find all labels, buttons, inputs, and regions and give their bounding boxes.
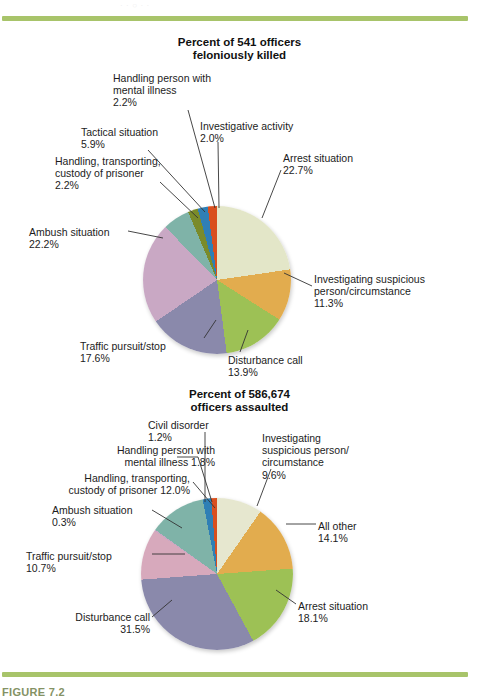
top-rule (2, 16, 468, 21)
chart1-pie (143, 206, 291, 354)
chart1-label-arrest-situation: Arrest situation 22.7% (283, 152, 413, 176)
chart1-label-investigating-suspicious: Investigating suspicious person/circumst… (314, 273, 469, 310)
chart1-title: Percent of 541 officers feloniously kill… (0, 36, 479, 62)
chart2-label-investigating-suspicious: Investigating suspicious person/ circums… (262, 432, 402, 481)
chart2-title: Percent of 586,674 officers assaulted (0, 388, 479, 414)
pie-chart-officers-assaulted: Percent of 586,674 officers assaulted Ci… (0, 384, 479, 674)
pie-chart-officers-killed: Percent of 541 officers feloniously kill… (0, 30, 479, 390)
figure-caption: FIGURE 7.2 (2, 686, 65, 696)
chart1-pie-wrap (143, 206, 291, 354)
chart2-title-line1: Percent of 586,674 (0, 388, 479, 401)
chart2-label-handling-transporting: Handling, transporting, custody of priso… (10, 472, 190, 496)
chart2-label-traffic-pursuit-stop: Traffic pursuit/stop 10.7% (26, 550, 156, 574)
chart1-title-line2: feloniously killed (0, 49, 479, 62)
chart1-label-investigative-activity: Investigative activity 2.0% (200, 120, 350, 144)
chart2-label-handling-mental-illness: Handling person with mental illness 1.8% (50, 444, 215, 468)
chart1-label-tactical-situation: Tactical situation 5.9% (81, 126, 211, 150)
page-header-ghost-text: · · ○ · · (120, 1, 460, 12)
chart2-title-line2: officers assaulted (0, 401, 479, 414)
chart2-label-arrest-situation: Arrest situation 18.1% (298, 600, 428, 624)
leader-investigative-activity (218, 142, 219, 208)
chart1-title-line1: Percent of 541 officers (0, 36, 479, 49)
chart1-label-handling-mental-illness: Handling person with mental illness 2.2% (113, 72, 253, 109)
chart1-label-traffic-pursuit-stop: Traffic pursuit/stop 17.6% (80, 340, 210, 364)
chart2-label-disturbance-call: Disturbance call 31.5% (40, 611, 150, 635)
chart1-label-handling-transporting: Handling, transporting, custody of priso… (55, 155, 190, 192)
chart2-label-ambush-situation: Ambush situation 0.3% (52, 504, 182, 528)
chart2-label-civil-disorder: Civil disorder 1.2% (148, 419, 268, 443)
figure-page: · · ○ · · FIGURE 7.2 Percent of 541 offi… (0, 0, 479, 696)
chart1-label-disturbance-call: Disturbance call 13.9% (228, 354, 358, 378)
chart2-label-all-other: All other 14.1% (318, 520, 428, 544)
chart1-label-ambush-situation: Ambush situation 22.2% (29, 226, 149, 250)
